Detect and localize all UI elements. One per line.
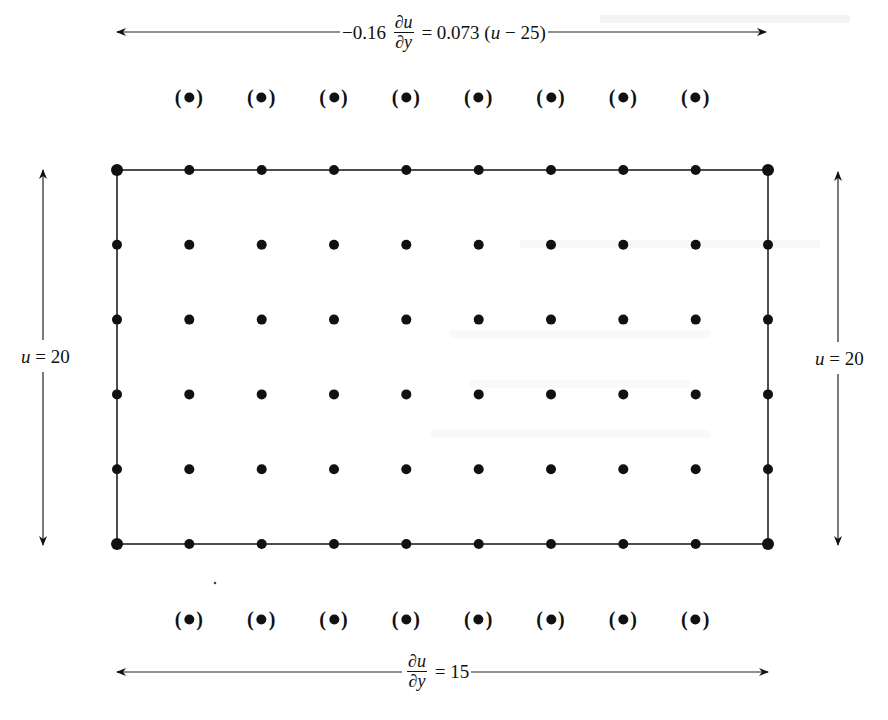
interior-node bbox=[618, 240, 628, 250]
interior-node bbox=[329, 315, 339, 325]
right-var: u bbox=[815, 348, 825, 369]
boundary-node bbox=[618, 165, 628, 175]
top-ghost-node: () bbox=[536, 86, 565, 109]
interior-node bbox=[184, 315, 194, 325]
boundary-rectangle bbox=[117, 170, 768, 544]
top-ghost-node: () bbox=[464, 86, 493, 109]
interior-node bbox=[474, 240, 484, 250]
boundary-node bbox=[762, 538, 774, 550]
ghost-node-dot-icon bbox=[691, 93, 701, 103]
interior-node bbox=[546, 464, 556, 474]
ghost-node-dot-icon bbox=[257, 93, 267, 103]
left-boundary-condition: u = 20 bbox=[20, 345, 71, 368]
interior-node bbox=[329, 389, 339, 399]
interior-node bbox=[329, 240, 339, 250]
bottom-ghost-node: () bbox=[536, 608, 565, 631]
interior-node bbox=[546, 389, 556, 399]
boundary-node bbox=[329, 539, 339, 549]
ghost-node-dot-icon bbox=[184, 615, 194, 625]
boundary-node bbox=[763, 389, 773, 399]
bottom-rhs: 15 bbox=[450, 662, 469, 681]
right-equals: = bbox=[829, 348, 840, 369]
interior-node bbox=[257, 315, 267, 325]
boundary-node bbox=[474, 165, 484, 175]
interior-node bbox=[184, 240, 194, 250]
interior-node bbox=[401, 240, 411, 250]
interior-node bbox=[329, 464, 339, 474]
interior-node bbox=[401, 464, 411, 474]
boundary-node bbox=[112, 240, 122, 250]
ghost-node-dot-icon bbox=[691, 615, 701, 625]
left-value: 20 bbox=[51, 346, 70, 367]
bottom-ghost-node: () bbox=[319, 608, 348, 631]
boundary-node bbox=[184, 165, 194, 175]
interior-node bbox=[474, 464, 484, 474]
ghost-node-dot-icon bbox=[329, 615, 339, 625]
boundary-node bbox=[184, 539, 194, 549]
ghost-node-dot-icon bbox=[546, 93, 556, 103]
top-boundary-condition: −0.16 ∂u ∂y = 0.073 (u − 25) bbox=[340, 13, 548, 52]
top-derivative-denominator: ∂y bbox=[394, 33, 414, 52]
boundary-node bbox=[401, 165, 411, 175]
bottom-ghost-node: () bbox=[464, 608, 493, 631]
interior-node bbox=[691, 315, 701, 325]
interior-node bbox=[257, 389, 267, 399]
bottom-ghost-node: () bbox=[392, 608, 421, 631]
boundary-node bbox=[546, 165, 556, 175]
boundary-node bbox=[257, 165, 267, 175]
top-ghost-node: () bbox=[609, 86, 638, 109]
top-coefficient: −0.16 bbox=[342, 23, 386, 42]
ghost-node-dot-icon bbox=[618, 615, 628, 625]
boundary-node bbox=[111, 164, 123, 176]
bottom-ghost-node: () bbox=[681, 608, 710, 631]
boundary-node bbox=[762, 164, 774, 176]
boundary-node bbox=[763, 464, 773, 474]
right-boundary-condition: u = 20 bbox=[814, 347, 865, 370]
left-equals: = bbox=[35, 346, 46, 367]
grid-canvas bbox=[0, 0, 888, 720]
ghost-node-dot-icon bbox=[257, 615, 267, 625]
interior-node bbox=[691, 464, 701, 474]
top-rhs: 0.073 (u − 25) bbox=[437, 23, 546, 42]
top-ghost-node: () bbox=[175, 86, 204, 109]
interior-node bbox=[618, 389, 628, 399]
ghost-node-dot-icon bbox=[618, 93, 628, 103]
interior-node bbox=[257, 464, 267, 474]
top-ghost-node: () bbox=[681, 86, 710, 109]
interior-node bbox=[474, 389, 484, 399]
boundary-node bbox=[763, 315, 773, 325]
grid-nodes bbox=[111, 164, 774, 550]
bottom-ghost-node: () bbox=[609, 608, 638, 631]
interior-node bbox=[184, 389, 194, 399]
top-derivative-fraction: ∂u ∂y bbox=[394, 13, 414, 52]
top-ghost-node: () bbox=[319, 86, 348, 109]
ghost-node-dot-icon bbox=[474, 93, 484, 103]
ghost-node-dot-icon bbox=[329, 93, 339, 103]
stray-speck bbox=[214, 582, 217, 585]
boundary-node bbox=[618, 539, 628, 549]
top-ghost-node: () bbox=[392, 86, 421, 109]
top-derivative-numerator: ∂u bbox=[394, 13, 414, 33]
boundary-node bbox=[763, 240, 773, 250]
ghost-node-dot-icon bbox=[401, 615, 411, 625]
boundary-node bbox=[112, 389, 122, 399]
boundary-node bbox=[401, 539, 411, 549]
interior-node bbox=[618, 464, 628, 474]
ghost-node-dot-icon bbox=[401, 93, 411, 103]
bottom-derivative-numerator: ∂u bbox=[407, 652, 427, 672]
interior-node bbox=[257, 240, 267, 250]
boundary-node bbox=[112, 464, 122, 474]
boundary-node bbox=[329, 165, 339, 175]
ghost-node-dot-icon bbox=[546, 615, 556, 625]
top-rhs-head: 0.073 ( bbox=[437, 22, 491, 43]
top-ghost-node: () bbox=[247, 86, 276, 109]
boundary-node bbox=[691, 165, 701, 175]
interior-node bbox=[401, 389, 411, 399]
interior-node bbox=[618, 315, 628, 325]
bottom-equals: = bbox=[435, 662, 446, 681]
interior-node bbox=[401, 315, 411, 325]
top-equals: = bbox=[421, 23, 432, 42]
right-value: 20 bbox=[845, 348, 864, 369]
interior-node bbox=[546, 315, 556, 325]
bottom-derivative-fraction: ∂u ∂y bbox=[407, 652, 427, 691]
